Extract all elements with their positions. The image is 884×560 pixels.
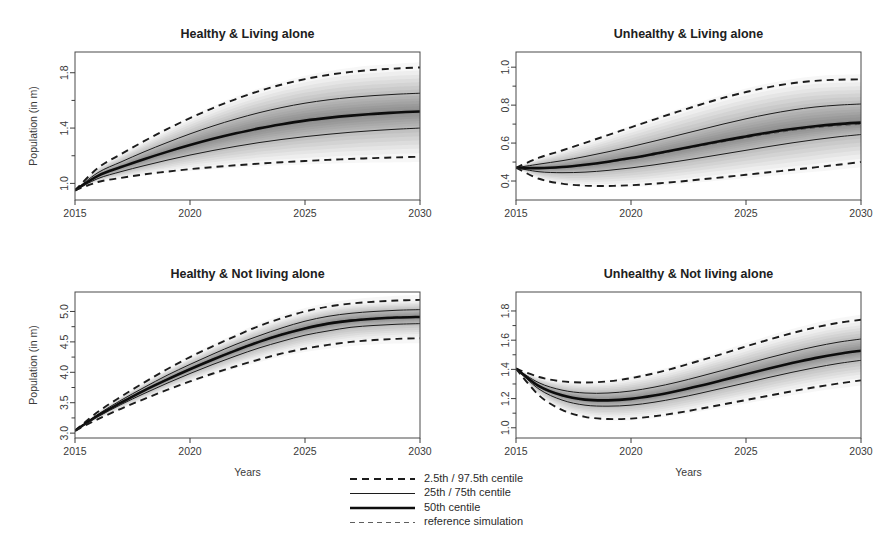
x-tick-label: 2025 — [734, 207, 758, 219]
panel-title: Unhealthy & Not living alone — [604, 267, 774, 281]
legend: 2.5th / 97.5th centile25th / 75th centil… — [350, 472, 523, 528]
figure-canvas: Healthy & Living alone20152020202520301.… — [0, 0, 884, 560]
x-tick-label: 2030 — [849, 445, 873, 457]
panel-title: Healthy & Not living alone — [170, 267, 324, 281]
legend-label-1: 25th / 75th centile — [424, 486, 511, 498]
y-tick-label: 1.6 — [499, 333, 511, 348]
y-tick-label: 3.5 — [58, 395, 70, 410]
y-tick-label: 5.0 — [58, 304, 70, 319]
x-tick-label: 2030 — [849, 207, 873, 219]
x-tick-label: 2030 — [408, 207, 432, 219]
panel-unhealthy-not-living-alone: Unhealthy & Not living alone201520202025… — [499, 267, 873, 478]
fan-shading — [516, 74, 861, 187]
y-tick-label: 3.0 — [58, 426, 70, 441]
y-tick-label: 1.4 — [499, 362, 511, 377]
y-tick-label: 1.8 — [58, 65, 70, 80]
x-tick-label: 2015 — [504, 207, 528, 219]
y-tick-label: 0.4 — [499, 174, 511, 189]
fan-chart-figure: Healthy & Living alone20152020202520301.… — [0, 0, 884, 560]
x-tick-label: 2020 — [619, 207, 643, 219]
x-tick-label: 2030 — [408, 445, 432, 457]
y-tick-label: 4.5 — [58, 334, 70, 349]
x-tick-label: 2020 — [178, 207, 202, 219]
panel-healthy-living-alone: Healthy & Living alone20152020202520301.… — [27, 27, 432, 219]
panel-unhealthy-living-alone: Unhealthy & Living alone2015202020252030… — [499, 27, 873, 219]
legend-label-0: 2.5th / 97.5th centile — [424, 472, 523, 484]
x-tick-label: 2015 — [504, 445, 528, 457]
x-tick-label: 2025 — [734, 445, 758, 457]
fan-band — [75, 308, 420, 430]
y-tick-label: 1.0 — [58, 176, 70, 191]
legend-label-2: 50th centile — [424, 501, 480, 513]
y-tick-label: 0.6 — [499, 136, 511, 151]
y-tick-label: 1.0 — [499, 60, 511, 75]
fan-shading — [75, 62, 420, 190]
y-tick-label: 1.2 — [499, 391, 511, 406]
x-tick-label: 2025 — [293, 207, 317, 219]
panel-healthy-not-living-alone: Healthy & Not living alone20152020202520… — [27, 267, 432, 478]
y-tick-label: 4.0 — [58, 365, 70, 380]
panel-title: Healthy & Living alone — [180, 27, 314, 41]
y-tick-label: 0.8 — [499, 98, 511, 113]
y-axis-title: Population (in m) — [27, 325, 39, 404]
legend-label-3: reference simulation — [424, 515, 523, 527]
x-tick-label: 2015 — [63, 445, 87, 457]
x-tick-label: 2020 — [619, 445, 643, 457]
x-axis-title: Years — [234, 466, 260, 478]
x-axis-title: Years — [675, 466, 701, 478]
x-tick-label: 2025 — [293, 445, 317, 457]
panel-title: Unhealthy & Living alone — [614, 27, 763, 41]
y-tick-label: 1.4 — [58, 121, 70, 136]
x-tick-label: 2020 — [178, 445, 202, 457]
x-tick-label: 2015 — [63, 207, 87, 219]
y-tick-label: 1.0 — [499, 420, 511, 435]
y-axis-title: Population (in m) — [27, 86, 39, 165]
fan-shading — [516, 315, 861, 421]
y-tick-label: 1.8 — [499, 304, 511, 319]
